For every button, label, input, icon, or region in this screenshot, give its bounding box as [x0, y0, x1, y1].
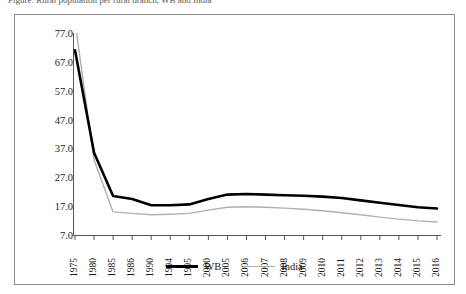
chart-svg: [73, 33, 441, 245]
legend-swatch-india-icon: [243, 266, 275, 267]
legend-item-india[interactable]: India: [243, 261, 303, 272]
figure-frame: Rural population per rural branch in '00…: [14, 14, 455, 285]
cut-off-caption-text: Figure: Rural population per rural branc…: [8, 0, 458, 5]
plot-area: [73, 33, 441, 235]
chart-legend: WB India: [15, 261, 454, 272]
legend-swatch-wb-icon: [166, 265, 198, 268]
y-tick-label: 17.0: [55, 201, 73, 212]
y-tick-label: 67.0: [55, 56, 73, 67]
y-tick-label: 27.0: [55, 172, 73, 183]
legend-label-wb: WB: [204, 261, 221, 272]
legend-label-india: India: [281, 261, 303, 272]
y-tick-label: 77.0: [55, 28, 73, 39]
series-line-wb: [75, 50, 437, 208]
y-tick-label: 37.0: [55, 143, 73, 154]
cut-off-caption: Figure: Rural population per rural branc…: [8, 0, 458, 9]
legend-item-wb[interactable]: WB: [166, 261, 221, 272]
y-axis-tick-labels: 7.017.027.037.047.057.067.077.0: [33, 15, 73, 284]
y-tick-label: 57.0: [55, 85, 73, 96]
y-tick-label: 7.0: [60, 230, 73, 241]
y-tick-label: 47.0: [55, 114, 73, 125]
